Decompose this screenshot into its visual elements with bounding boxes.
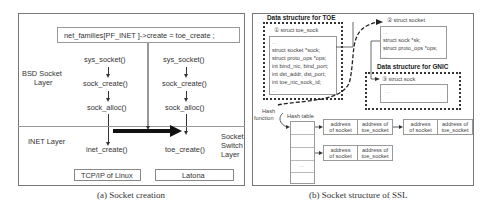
figure-b-connectors bbox=[0, 0, 487, 211]
caption-b: (b) Socket structure of SSL bbox=[309, 190, 407, 200]
